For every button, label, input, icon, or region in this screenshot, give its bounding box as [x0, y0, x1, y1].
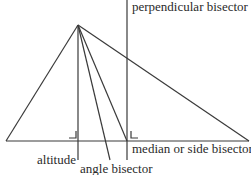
- altitude-right-angle-mark: [69, 131, 76, 138]
- label-altitude: altitude: [37, 152, 76, 167]
- triangle-diagram: perpendicular bisector median or side bi…: [0, 0, 251, 175]
- perpendicular-right-angle-mark: [131, 131, 138, 138]
- triangle-left-side: [6, 25, 78, 141]
- label-perpendicular-bisector: perpendicular bisector: [132, 0, 249, 14]
- label-angle-bisector: angle bisector: [80, 161, 153, 175]
- median-line: [78, 25, 127, 141]
- angle-bisector-line: [78, 25, 110, 160]
- label-median: median or side bisector: [132, 141, 251, 156]
- triangle-right-side: [78, 25, 249, 141]
